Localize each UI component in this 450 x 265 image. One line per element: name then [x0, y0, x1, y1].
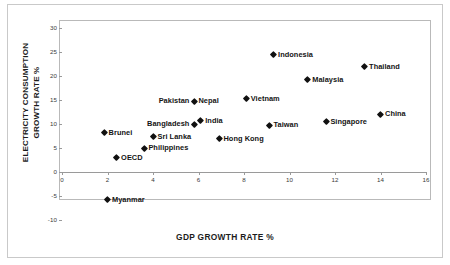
data-point-marker: [270, 51, 277, 58]
y-tick-mark: [59, 220, 62, 221]
data-point-label: Vietnam: [251, 95, 280, 102]
y-tick-mark: [59, 124, 62, 125]
data-point-label: Brunei: [109, 129, 133, 136]
data-point-label: Malaysia: [312, 76, 343, 83]
data-point-marker: [323, 118, 330, 125]
data-point-label: Philippines: [148, 144, 188, 151]
data-point-marker: [361, 63, 368, 70]
data-point-marker: [377, 111, 384, 118]
data-point-marker: [104, 196, 111, 203]
y-tick-mark: [59, 148, 62, 149]
data-point-label: India: [205, 117, 223, 124]
data-point-marker: [101, 129, 108, 136]
y-tick-mark: [59, 76, 62, 77]
data-point-marker: [113, 154, 120, 161]
y-tick-mark: [59, 196, 62, 197]
data-point-label: Indonesia: [278, 51, 313, 58]
y-tick-mark: [59, 100, 62, 101]
data-point-marker: [197, 117, 204, 124]
data-point-label: Thailand: [369, 63, 400, 70]
data-point-marker: [141, 145, 148, 152]
data-point-label: Bangladesh: [147, 120, 189, 127]
data-point-label: Nepal: [198, 97, 218, 104]
y-tick-mark: [59, 52, 62, 53]
data-point-marker: [216, 135, 223, 142]
y-tick-mark: [59, 172, 62, 173]
data-point-marker: [150, 133, 157, 140]
data-points-layer: IndonesiaThailandMalaysiaVietnamNepalPak…: [0, 0, 450, 265]
data-point-label: OECD: [121, 154, 143, 161]
data-point-marker: [266, 122, 273, 129]
data-point-label: Taiwan: [274, 121, 299, 128]
data-point-label: Singapore: [330, 118, 367, 125]
data-point-marker: [191, 121, 198, 128]
data-point-label: China: [385, 110, 406, 117]
data-point-marker: [191, 98, 198, 105]
y-tick-mark: [59, 28, 62, 29]
data-point-label: Hong Kong: [223, 135, 263, 142]
data-point-marker: [243, 95, 250, 102]
data-point-label: Myanmar: [112, 196, 145, 203]
data-point-marker: [304, 76, 311, 83]
scatter-chart-figure: 302520151050-5-10 0246810121416 ELECTRIC…: [0, 0, 450, 265]
data-point-label: Sri Lanka: [158, 133, 192, 140]
data-point-label: Pakistan: [159, 97, 190, 104]
